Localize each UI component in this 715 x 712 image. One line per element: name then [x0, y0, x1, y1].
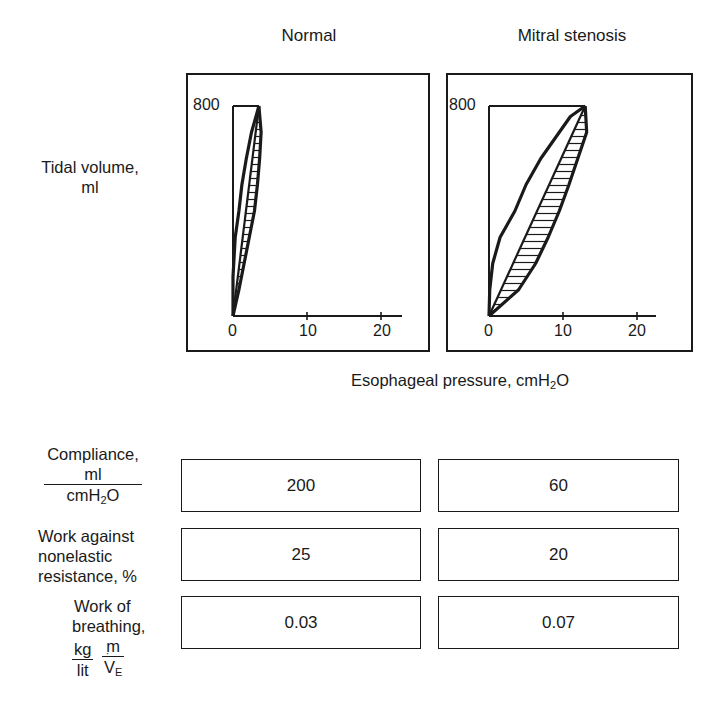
- x-tick-10-stenosis: 10: [554, 322, 572, 340]
- x-tick-0-normal: 0: [228, 322, 237, 340]
- x-tick-10-normal: 10: [299, 322, 317, 340]
- work-unit-fraction-kg-lit: kg lit: [72, 639, 93, 680]
- value-compliance-stenosis: 60: [438, 459, 679, 512]
- value-work-of-breathing-normal: 0.03: [181, 596, 421, 649]
- x-tick-0-stenosis: 0: [484, 322, 493, 340]
- value-nonelastic-work-stenosis: 20: [438, 528, 679, 581]
- compliance-unit-fraction: ml cmH2O: [44, 464, 142, 510]
- value-compliance-normal: 200: [181, 459, 421, 512]
- work-unit-fraction-m-ve: m ˙VE: [102, 636, 124, 682]
- loop-plot-normal: [233, 106, 402, 320]
- y-tick-800-normal: 800: [193, 96, 220, 114]
- y-tick-800-stenosis: 800: [449, 96, 476, 114]
- x-tick-20-normal: 20: [373, 322, 391, 340]
- row-label-work-of-breathing: Work of breathing, kg lit m ˙VE: [72, 596, 172, 682]
- x-axis-label: Esophageal pressure, cmH2O: [300, 371, 620, 391]
- row-label-compliance: Compliance, ml cmH2O: [28, 444, 158, 510]
- x-tick-20-stenosis: 20: [628, 322, 646, 340]
- row-label-nonelastic-work: Work against nonelastic resistance, %: [38, 526, 168, 586]
- value-nonelastic-work-normal: 25: [181, 528, 421, 581]
- value-work-of-breathing-stenosis: 0.07: [438, 596, 679, 649]
- loop-plot-mitral-stenosis: [489, 106, 656, 320]
